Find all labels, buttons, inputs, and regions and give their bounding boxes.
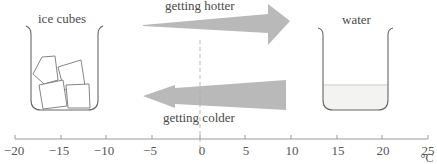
axis-tick-label: −5 (143, 143, 157, 159)
ice-cubes-label: ice cubes (38, 11, 86, 27)
getting-hotter-label: getting hotter (165, 0, 235, 14)
axis-tick-label: 0 (199, 143, 206, 159)
axis-tick-label: −20 (4, 143, 24, 159)
axis-tick-label: 10 (286, 143, 299, 159)
axis-tick-label: 20 (377, 143, 390, 159)
ice-cube-icons (33, 56, 90, 109)
getting-colder-label: getting colder (163, 110, 235, 126)
axis-tick-marks (15, 135, 428, 139)
axis-tick-label: −10 (94, 143, 114, 159)
getting-colder-arrow (143, 80, 286, 110)
axis-tick-label: 5 (243, 143, 250, 159)
water-beaker (318, 28, 393, 110)
unit-label: °C (421, 151, 434, 164)
axis-tick-label: −15 (49, 143, 69, 159)
water-label: water (342, 12, 371, 28)
axis-tick-label: 15 (332, 143, 345, 159)
